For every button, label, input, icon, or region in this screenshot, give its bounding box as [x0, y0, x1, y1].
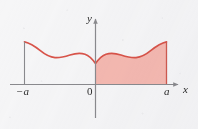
even-function-integral-figure: −a 0 a x y	[0, 0, 198, 129]
origin-label: 0	[87, 86, 93, 97]
y-axis-label: y	[87, 13, 92, 24]
x-tick-label-negative-a: −a	[16, 86, 29, 97]
x-tick-label-a: a	[164, 86, 170, 97]
plot-canvas	[0, 0, 198, 129]
shaded-area-region	[96, 42, 167, 85]
x-axis-label: x	[183, 84, 188, 95]
